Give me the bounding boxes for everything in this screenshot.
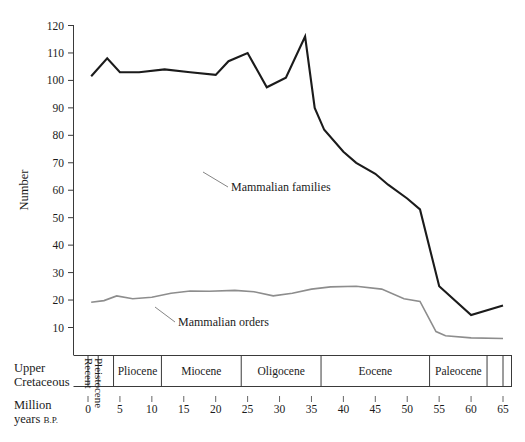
epoch-label-paleocene: Paleocene bbox=[435, 365, 482, 377]
scale-row-label-years: years bbox=[14, 412, 44, 426]
y-axis-tick-label: 70 bbox=[53, 157, 65, 169]
y-axis-tick-label: 60 bbox=[53, 184, 65, 196]
series-line-mammalian-orders bbox=[91, 286, 503, 338]
y-axis-title: Number bbox=[17, 169, 31, 211]
series-label-mammalian-families: Mammalian families bbox=[231, 180, 331, 194]
y-axis-tick-label: 30 bbox=[53, 267, 65, 279]
series-line-mammalian-families bbox=[91, 37, 503, 316]
timescale-label: 30 bbox=[274, 403, 286, 415]
epoch-label-miocene: Miocene bbox=[181, 365, 221, 377]
y-axis-tick-label: 20 bbox=[53, 294, 65, 306]
y-axis-tick-label: 100 bbox=[47, 74, 65, 86]
leader-line-orders bbox=[155, 307, 175, 322]
scale-row-label-line1: Million bbox=[14, 398, 52, 412]
timescale-label: 65 bbox=[497, 403, 509, 415]
mammalian-diversity-line-chart: 120110100908070605040302010 Number Paleo… bbox=[0, 0, 525, 442]
epoch-upper-cretaceous-line1: Upper bbox=[14, 361, 46, 375]
epoch-labels: PaleoceneEoceneOligoceneMiocenePlioceneP… bbox=[83, 358, 482, 408]
chart-figure: 120110100908070605040302010 Number Paleo… bbox=[0, 0, 525, 442]
timescale-label: 15 bbox=[178, 403, 190, 415]
timescale-label: 45 bbox=[370, 403, 382, 415]
scale-row-label-line2: years B.P. bbox=[14, 412, 58, 426]
y-axis-tick-labels: 120110100908070605040302010 bbox=[47, 20, 65, 334]
leader-line-families bbox=[203, 172, 228, 187]
timescale-label: 0 bbox=[85, 403, 91, 415]
timescale-ticks bbox=[88, 396, 503, 402]
timescale-tick-labels: 65605550454035302520151050 bbox=[85, 403, 509, 415]
epoch-label-recent: Recent bbox=[83, 358, 95, 389]
timescale-label: 25 bbox=[242, 403, 254, 415]
timescale-label: 40 bbox=[338, 403, 350, 415]
y-axis-tick-label: 40 bbox=[53, 239, 65, 251]
y-axis-tick-label: 80 bbox=[53, 129, 65, 141]
y-axis-ticks bbox=[68, 26, 74, 328]
epoch-label-eocene: Eocene bbox=[358, 365, 392, 377]
timescale-label: 35 bbox=[306, 403, 318, 415]
timescale-label: 20 bbox=[210, 403, 222, 415]
series-label-mammalian-orders: Mammalian orders bbox=[178, 315, 269, 329]
timescale-label: 50 bbox=[401, 403, 413, 415]
timescale-label: 55 bbox=[433, 403, 445, 415]
scale-row-label-bp: B.P. bbox=[44, 415, 59, 425]
timescale-label: 5 bbox=[117, 403, 123, 415]
y-axis-tick-label: 50 bbox=[53, 212, 65, 224]
y-axis-tick-label: 110 bbox=[47, 47, 64, 59]
y-axis-tick-label: 10 bbox=[53, 322, 65, 334]
y-axis-tick-label: 120 bbox=[47, 20, 65, 32]
axes-group bbox=[74, 25, 513, 387]
epoch-upper-cretaceous-line2: Cretaceous bbox=[14, 375, 70, 389]
epoch-label-pliocene: Pliocene bbox=[118, 365, 158, 377]
y-axis-tick-label: 90 bbox=[53, 102, 65, 114]
timescale-label: 10 bbox=[146, 403, 158, 415]
timescale-label: 60 bbox=[465, 403, 477, 415]
epoch-label-oligocene: Oligocene bbox=[258, 365, 305, 378]
